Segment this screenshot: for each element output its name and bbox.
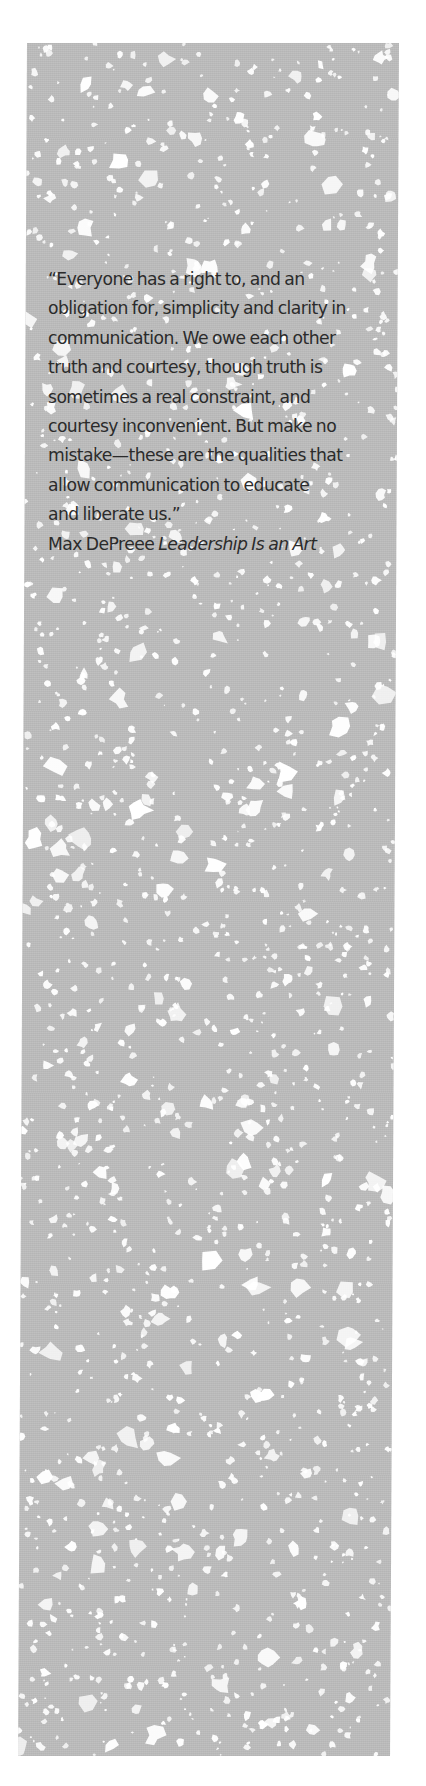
lace-blob bbox=[64, 716, 70, 721]
lace-blob bbox=[355, 1204, 363, 1211]
lace-blob bbox=[269, 561, 272, 564]
lace-blob bbox=[384, 49, 391, 55]
lace-blob bbox=[120, 80, 133, 91]
lace-blob bbox=[71, 866, 85, 881]
lace-blob bbox=[393, 406, 398, 411]
lace-blob bbox=[40, 632, 45, 636]
lace-blob bbox=[380, 1500, 385, 1504]
lace-blob bbox=[329, 1541, 339, 1550]
lace-blob bbox=[384, 1209, 390, 1215]
lace-blob bbox=[345, 1100, 350, 1104]
lace-blob bbox=[26, 942, 30, 947]
lace-blob bbox=[394, 455, 399, 462]
lace-blob bbox=[360, 1516, 364, 1520]
lace-blob bbox=[191, 1718, 194, 1720]
lace-blob bbox=[75, 1389, 79, 1393]
lace-blob bbox=[94, 1023, 102, 1032]
lace-blob bbox=[180, 978, 192, 990]
lace-blob bbox=[174, 815, 181, 821]
lace-blob bbox=[325, 1481, 327, 1483]
lace-blob bbox=[30, 593, 37, 599]
lace-blob bbox=[384, 945, 390, 953]
lace-blob bbox=[139, 1315, 143, 1319]
lace-blob bbox=[336, 750, 348, 756]
lace-blob bbox=[137, 86, 156, 97]
lace-blob bbox=[304, 92, 312, 100]
lace-blob bbox=[226, 1456, 236, 1465]
lace-blob bbox=[313, 1466, 321, 1475]
lace-blob bbox=[366, 1380, 371, 1386]
lace-blob bbox=[196, 718, 199, 721]
lace-blob bbox=[216, 1747, 219, 1750]
lace-blob bbox=[65, 1186, 70, 1191]
lace-blob bbox=[135, 193, 144, 201]
lace-blob bbox=[58, 1165, 61, 1169]
lace-blob bbox=[290, 1592, 296, 1599]
lace-blob bbox=[229, 779, 235, 784]
lace-blob bbox=[223, 239, 230, 246]
lace-blob bbox=[159, 628, 162, 631]
lace-blob bbox=[362, 751, 368, 757]
lace-blob bbox=[76, 667, 78, 669]
lace-blob bbox=[241, 222, 251, 234]
lace-blob bbox=[178, 1203, 182, 1207]
lace-blob bbox=[357, 1053, 362, 1059]
lace-blob bbox=[321, 176, 343, 195]
lace-blob bbox=[383, 1369, 387, 1373]
lace-blob bbox=[240, 1119, 263, 1136]
lace-blob bbox=[40, 1426, 50, 1431]
lace-blob bbox=[187, 172, 194, 180]
lace-blob bbox=[114, 648, 121, 654]
lace-blob bbox=[271, 1033, 276, 1038]
lace-blob bbox=[224, 932, 230, 936]
lace-blob bbox=[20, 1414, 23, 1418]
lace-blob bbox=[50, 1614, 57, 1623]
lace-blob bbox=[301, 807, 307, 811]
lace-blob bbox=[263, 1441, 270, 1449]
lace-blob bbox=[212, 1205, 222, 1213]
lace-blob bbox=[242, 1644, 247, 1650]
lace-blob bbox=[120, 1219, 127, 1227]
lace-blob bbox=[272, 822, 278, 828]
lace-blob bbox=[147, 119, 150, 121]
lace-blob bbox=[75, 1345, 85, 1353]
lace-blob bbox=[113, 1566, 117, 1569]
lace-blob bbox=[111, 977, 113, 981]
lace-blob bbox=[158, 1504, 160, 1506]
lace-blob bbox=[58, 784, 64, 788]
lace-blob bbox=[298, 1427, 302, 1429]
lace-blob bbox=[326, 1224, 329, 1229]
lace-blob bbox=[166, 1199, 171, 1206]
lace-blob bbox=[72, 1086, 76, 1090]
lace-blob bbox=[70, 181, 78, 188]
lace-blob bbox=[39, 557, 44, 563]
lace-blob bbox=[172, 657, 179, 666]
lace-blob bbox=[48, 1003, 52, 1007]
lace-blob bbox=[242, 958, 248, 963]
lace-blob bbox=[344, 1732, 351, 1738]
lace-blob bbox=[104, 261, 107, 264]
lace-blob bbox=[114, 194, 117, 198]
lace-blob bbox=[266, 947, 270, 951]
lace-blob bbox=[167, 1716, 172, 1722]
lace-blob bbox=[145, 1281, 148, 1284]
lace-blob bbox=[330, 1715, 334, 1718]
lace-blob bbox=[203, 669, 210, 677]
lace-blob bbox=[93, 1754, 96, 1756]
lace-blob bbox=[68, 959, 71, 964]
lace-blob bbox=[69, 1677, 73, 1681]
lace-blob bbox=[241, 605, 245, 610]
lace-blob bbox=[107, 1176, 116, 1183]
lace-blob bbox=[310, 165, 316, 172]
lace-blob bbox=[202, 1251, 223, 1271]
lace-blob bbox=[109, 1620, 112, 1624]
lace-blob bbox=[147, 572, 153, 577]
lace-blob bbox=[182, 1642, 187, 1646]
lace-blob bbox=[77, 218, 93, 236]
lace-blob bbox=[305, 955, 311, 961]
lace-blob bbox=[252, 955, 257, 960]
lace-blob bbox=[93, 95, 99, 100]
lace-blob bbox=[34, 1538, 38, 1540]
lace-blob bbox=[157, 631, 159, 633]
lace-blob bbox=[42, 240, 45, 244]
